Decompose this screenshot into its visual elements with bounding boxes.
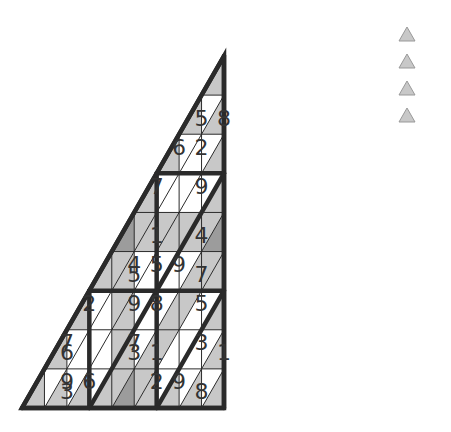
cell-number: 9 [195,174,209,199]
cell-number: 3 [195,330,209,355]
cell-number: 7 [150,174,164,199]
triangle-icon [399,27,415,41]
cell-number: 9 [172,369,186,394]
legend-triangle-icon-1[interactable] [398,26,416,42]
cell-number: 7 [195,262,209,287]
cell-number: 7 [127,330,141,355]
legend-triangle-icon-3[interactable] [398,80,416,96]
cell-number: 1 [150,223,164,248]
cell-number: 6 [82,369,96,394]
cell-number: 5 [195,291,209,316]
cell-number: 1 [150,340,164,365]
cell-number: 9 [60,369,74,394]
puzzle-board: 586279145459729856737131396298 [0,0,451,432]
cell-number: 6 [172,135,186,160]
cell-number: 1 [217,340,231,365]
cell-number: 5 [195,106,209,131]
legend-triangle-icon-4[interactable] [398,107,416,123]
cell-number: 8 [217,106,231,131]
cell-number: 9 [172,252,186,277]
cell-number: 2 [150,369,164,394]
cell-number: 8 [195,379,209,404]
triangle-icon [399,54,415,68]
cell-number: 4 [127,252,141,277]
legend [398,26,418,134]
cell-number: 7 [60,330,74,355]
legend-triangle-icon-2[interactable] [398,53,416,69]
cell-number: 5 [150,252,164,277]
cell-number: 8 [150,291,164,316]
cell-number: 4 [195,223,209,248]
cell-number: 2 [82,291,96,316]
triangle-icon [399,108,415,122]
triangle-icon [399,81,415,95]
cell-number: 2 [195,135,209,160]
cell-number: 9 [127,291,141,316]
